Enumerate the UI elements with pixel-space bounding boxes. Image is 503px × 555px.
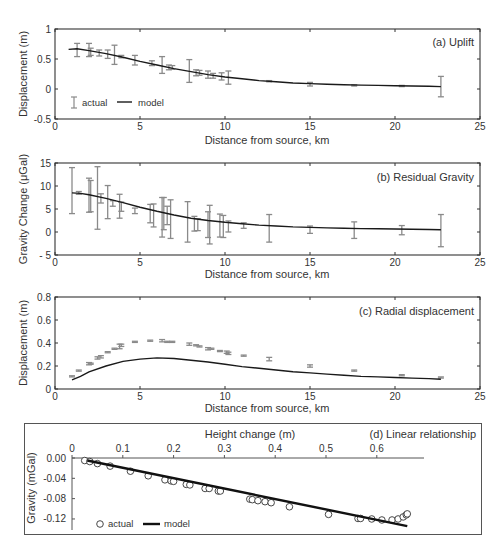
error-bar [151, 204, 157, 227]
y-tick-label: -0.5 [34, 114, 52, 125]
error-bar [69, 168, 75, 214]
y-axis-label-uplift: Displacement (m) [17, 31, 29, 117]
data-point-circle [268, 499, 275, 506]
panel-linear-relationship: 00.10.20.30.40.50.60.00-0.04-0.08-0.12 [43, 443, 424, 530]
y-axis-label-linear-relationship: Gravity (mGal) [25, 452, 37, 524]
error-bar [185, 202, 191, 242]
panel-uplift: 0510152025-0.500.51 [34, 24, 486, 133]
y-tick-label: - 5 [39, 250, 51, 261]
x-axis-label-linear-relationship: Height change (m) [205, 428, 296, 440]
x-tick-label: 0.3 [217, 443, 231, 454]
error-bar [132, 208, 138, 214]
y-tick-label: -0.08 [43, 493, 66, 504]
data-point-circle [404, 511, 411, 518]
y-tick-label: 0 [45, 384, 51, 395]
legend-uplift: actual model [71, 97, 164, 108]
y-tick-label: 0.5 [37, 54, 51, 65]
error-bar [88, 363, 94, 364]
error-bar [399, 375, 405, 376]
y-tick-label: -0.04 [43, 473, 66, 484]
y-tick-label: 10 [40, 181, 52, 192]
legend-label-actual: actual [82, 97, 107, 108]
data-point-circle [286, 503, 293, 510]
x-tick-label: 0 [52, 257, 58, 268]
x-tick-label: 0.1 [116, 443, 130, 454]
error-bar [147, 340, 153, 341]
panel-frame-linear [25, 424, 482, 535]
x-tick-label: 10 [219, 391, 231, 402]
error-bar [438, 377, 444, 378]
x-axis-label-residual-gravity: Distance from source, km [205, 268, 330, 280]
x-tick-label: 5 [137, 391, 143, 402]
error-bar [217, 350, 223, 351]
error-bar [307, 365, 313, 367]
error-bar [438, 215, 444, 247]
x-tick-label: 20 [389, 121, 401, 132]
y-tick-label: 0.4 [37, 338, 51, 349]
error-bar [208, 348, 214, 349]
x-tick-label: 0.4 [268, 443, 282, 454]
x-tick-label: 20 [389, 257, 401, 268]
legend-label-model: model [138, 97, 164, 108]
error-bar [76, 370, 82, 371]
x-tick-label: 15 [304, 391, 316, 402]
x-tick-label: 0 [52, 391, 58, 402]
x-tick-label: 25 [474, 257, 486, 268]
error-bar [399, 226, 405, 235]
legend-errorbar-icon [71, 97, 77, 108]
model-line [69, 49, 441, 87]
figure: 0510152025-0.500.51 (a) Uplift Distance … [0, 0, 503, 555]
error-bar [147, 204, 153, 222]
legend-circle-icon [97, 521, 104, 528]
y-tick-label: -0.12 [43, 513, 66, 524]
error-bar [241, 355, 247, 356]
y-tick-label: 0 [45, 84, 51, 95]
x-tick-label: 0.2 [167, 443, 181, 454]
x-tick-label: 0 [69, 443, 75, 454]
error-bar [186, 343, 192, 345]
x-tick-label: 25 [474, 121, 486, 132]
x-axis-label-radial-displacement: Distance from source, km [205, 402, 330, 414]
x-tick-label: 10 [219, 257, 231, 268]
error-bar [195, 219, 201, 231]
plot-frame [55, 29, 480, 119]
error-bar [110, 201, 116, 207]
y-tick-label: 15 [40, 158, 52, 169]
y-tick-label: 1 [45, 24, 51, 35]
data-point-circle [262, 498, 269, 505]
error-bar [266, 215, 272, 243]
model-line [72, 193, 441, 230]
x-tick-label: 0.5 [319, 443, 333, 454]
x-tick-label: 0 [52, 121, 58, 132]
x-tick-label: 10 [219, 121, 231, 132]
x-tick-label: 5 [137, 121, 143, 132]
legend-label-model: model [164, 518, 190, 529]
x-tick-label: 5 [137, 257, 143, 268]
panel-title-linear-relationship: (d) Linear relationship [370, 428, 476, 440]
data-point-circle [255, 497, 262, 504]
y-axis-label-radial-displacement: Displacement (m) [17, 300, 29, 386]
error-bar [105, 352, 111, 353]
error-bar [132, 341, 138, 342]
error-bar [169, 341, 175, 342]
model-line [72, 358, 441, 380]
error-bar [351, 222, 357, 239]
x-tick-label: 0.6 [370, 443, 384, 454]
y-tick-label: 0 [45, 227, 51, 238]
model-line [87, 461, 407, 527]
x-axis-label-uplift: Distance from source, km [205, 134, 330, 146]
y-tick-label: 0.00 [47, 453, 67, 464]
legend-linear: actual model [97, 518, 190, 529]
error-bar [217, 214, 223, 237]
legend-label-actual: actual [108, 518, 133, 529]
error-bar [95, 167, 101, 230]
error-bar [266, 357, 272, 360]
error-bar [351, 370, 357, 371]
y-tick-label: 0.2 [37, 361, 51, 372]
error-bar [105, 186, 111, 219]
panel-title-residual-gravity: (b) Residual Gravity [377, 171, 475, 183]
y-axis-label-residual-gravity: Gravity Change (μGal) [17, 154, 29, 264]
x-tick-label: 15 [304, 257, 316, 268]
error-bar [69, 376, 75, 377]
y-tick-label: 0.8 [37, 292, 51, 303]
